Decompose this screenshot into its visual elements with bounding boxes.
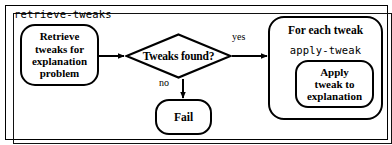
procedure-label-retrieve-tweaks: retrieve-tweaks bbox=[14, 8, 112, 20]
node-fail: Fail bbox=[155, 99, 212, 135]
node-apply-line-2: tweak to bbox=[314, 78, 354, 90]
for-each-title: For each tweak bbox=[270, 24, 381, 36]
flowchart-diagram: retrieve-tweaks Retrieve tweaks for expl… bbox=[0, 0, 392, 145]
node-decision-tweaks-found: Tweaks found? bbox=[125, 33, 232, 79]
caption-fragment-strip bbox=[0, 141, 392, 145]
node-apply-line-1: Apply bbox=[320, 66, 349, 78]
node-retrieve-line-3: explanation bbox=[32, 55, 87, 67]
node-retrieve-tweaks: Retrieve tweaks for explanation problem bbox=[20, 24, 99, 86]
node-fail-label: Fail bbox=[174, 111, 193, 124]
node-retrieve-line-4: problem bbox=[40, 67, 80, 79]
edge-label-yes: yes bbox=[232, 31, 245, 42]
node-apply-line-3: explanation bbox=[307, 90, 362, 102]
node-retrieve-line-1: Retrieve bbox=[40, 30, 80, 42]
node-apply-tweak: Apply tweak to explanation bbox=[295, 60, 374, 108]
procedure-label-apply-tweak: apply-tweak bbox=[270, 44, 381, 56]
decision-label: Tweaks found? bbox=[125, 33, 232, 79]
node-retrieve-line-2: tweaks for bbox=[35, 43, 84, 55]
edge-label-no: no bbox=[159, 77, 169, 88]
